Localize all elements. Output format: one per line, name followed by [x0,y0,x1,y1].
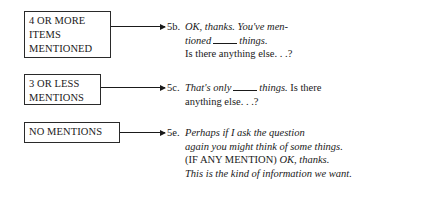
arrow-right-icon [101,87,165,88]
text-run: things. [239,35,267,46]
item-number: 5e. [167,126,180,140]
response-line: again you might think of some things. [185,140,352,154]
condition-line: ITEMS [29,28,106,42]
fill-in-blank [233,82,257,91]
text-run: This is the kind of information we want. [185,168,352,179]
response-line: That's onlythings. Is there [185,81,321,95]
fill-in-blank [213,35,237,44]
condition-line: 4 OR MORE [29,14,106,28]
text-run: Is there anything else. . .? [185,48,292,59]
condition-box-no-mentions: NO MENTIONS [24,122,120,143]
text-run: tioned [185,35,211,46]
text-run: That's only [185,82,231,93]
response-line: (IF ANY MENTION) OK, thanks. [185,153,352,167]
text-run: again you might think of some things. [185,141,343,152]
text-run: Perhaps if I ask the question [185,127,305,138]
condition-box-4-or-more: 4 OR MORE ITEMS MENTIONED [24,11,111,58]
item-number: 5c. [167,81,180,95]
response-line: OK, thanks. You've men- [185,20,292,34]
text-run: anything else. . .? [185,96,258,107]
condition-box-3-or-less: 3 OR LESS MENTIONS [24,74,101,105]
response-text: That's onlythings. Is thereanything else… [185,81,321,108]
condition-line: 3 OR LESS [29,77,96,91]
response-line: Is there anything else. . .? [185,47,292,61]
response-text: OK, thanks. You've men-tionedthings.Is t… [185,20,292,61]
response-line: This is the kind of information we want. [185,167,352,181]
response-line: Perhaps if I ask the question [185,126,352,140]
response-text: Perhaps if I ask the questionagain you m… [185,126,352,180]
text-run: (IF ANY MENTION) [185,154,279,165]
condition-line: MENTIONED [29,42,106,56]
text-run: Is there [288,82,322,93]
condition-line: NO MENTIONS [29,125,115,139]
condition-line: MENTIONS [29,91,96,105]
text-run: OK, thanks. [279,154,329,165]
text-run: OK, thanks. You've men- [185,21,288,32]
text-run: things. [259,82,287,93]
arrow-right-icon [120,132,165,133]
response-line: tionedthings. [185,34,292,48]
response-line: anything else. . .? [185,95,321,109]
item-number: 5b. [167,20,180,34]
arrow-right-icon [111,26,165,27]
